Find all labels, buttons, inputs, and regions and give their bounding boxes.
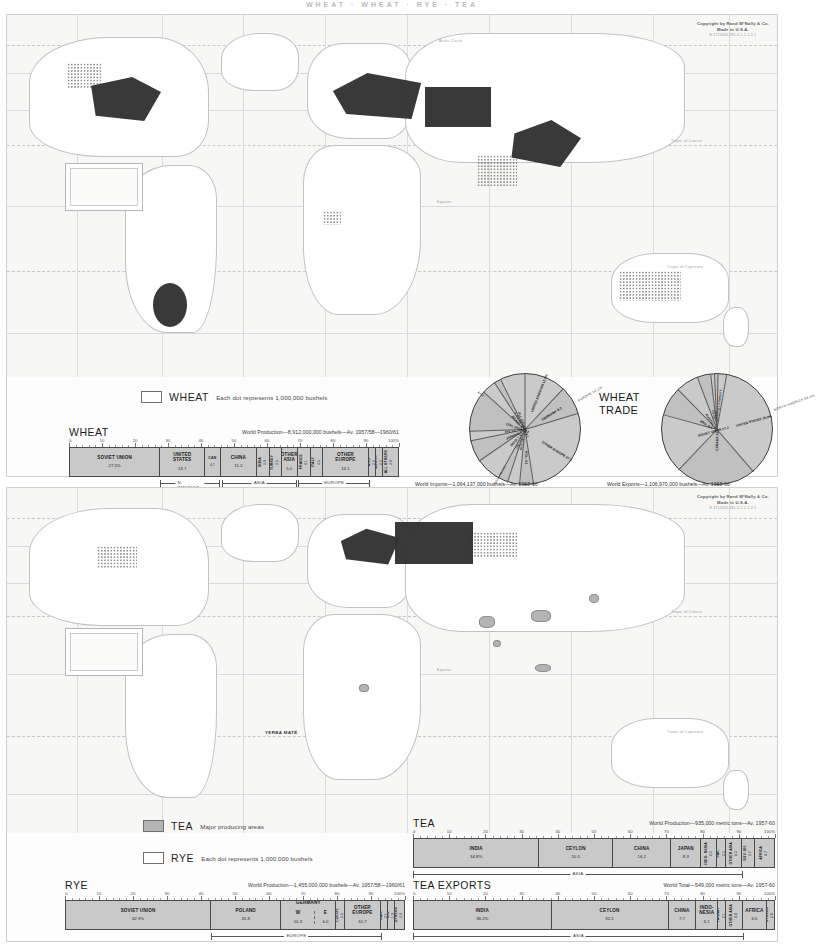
tea-exports-bar[interactable]: INDIA38.2%CEYLON32.5CHINA7.7INDO- NESIA6… <box>413 900 775 930</box>
axis-tick-label: 10 <box>447 829 452 834</box>
axis-tick-label: 90 <box>369 891 374 896</box>
tea-barchart-source: World Production—935,000 metric tons—Av.… <box>649 820 775 826</box>
bar-segment[interactable]: OTHER EUROPE10.7 <box>345 901 381 929</box>
region-bracket-label: ASIA <box>252 480 267 485</box>
wheat-barchart-bar[interactable]: SOVIET UNION27.5%UNITED STATES13.7CAN4.7… <box>69 447 399 477</box>
bar-segment[interactable]: OTHER ASIA4.8 <box>726 901 743 929</box>
bar-segment-value: 7.7 <box>679 916 685 921</box>
bar-segment[interactable]: POLAND20.8 <box>211 901 281 929</box>
bar-segment[interactable]: INDIA34.8% <box>414 839 539 867</box>
bar-segment[interactable]: UNITED STATES13.7 <box>160 448 205 476</box>
axis-tick-label: 30 <box>166 438 171 443</box>
bar-segment-label: INDO- NESIA <box>699 906 714 916</box>
bar-segment[interactable]: CAN4.7 <box>205 448 220 476</box>
bar-segment[interactable]: CEYLON32.5 <box>552 901 669 929</box>
tropic-of-cancer-label: Tropic of Cancer <box>671 610 702 614</box>
bar-segment[interactable]: OTHERS2.0 <box>767 901 774 929</box>
bar-subsegment[interactable]: E6.0 <box>315 911 335 923</box>
region-bracket: ASIA <box>222 480 297 487</box>
copyright-notice: Copyright by Rand MᶜNally & Co. Made in … <box>697 494 769 511</box>
wheat-dots-canada <box>67 63 101 89</box>
bar-segment-value: 2.8 <box>399 913 403 918</box>
bar-segment-value: 38.2% <box>476 916 488 921</box>
bar-segment[interactable]: AUSTR.2.2 <box>376 448 383 476</box>
wheat-exports-piechart[interactable]: UNITED STATES 35.9%CANADA 23.4SOVIET UNI… <box>661 373 773 485</box>
bar-segment[interactable]: SOVIET UNION42.9% <box>66 901 211 929</box>
equator-label: Equator <box>437 200 452 204</box>
bar-segment[interactable]: OTHERS2.8 <box>395 901 404 929</box>
bar-segment[interactable]: ARG.2.2 <box>369 448 376 476</box>
pie-slice-divider <box>525 374 526 430</box>
tropic-of-cancer-label: Tropic of Cancer <box>671 139 702 143</box>
axis-tick-label: 40 <box>555 891 560 896</box>
bar-segment[interactable]: OTHER ASIA5.0 <box>282 448 298 476</box>
wheat-legend: WHEAT Each dot represents 1,000,000 bush… <box>141 391 328 403</box>
rye-barchart-bar[interactable]: SOVIET UNION42.9%POLAND20.8GERMANYW10.3E… <box>65 900 405 930</box>
tea-barchart-bar[interactable]: INDIA34.8%CEYLON20.5CHINA16.2JAPAN8.3IND… <box>413 838 775 868</box>
wheat-dots-argentina <box>153 283 187 327</box>
tea-legend-title: TEA <box>171 820 193 832</box>
inset-map-box[interactable] <box>65 163 143 211</box>
axis-tick <box>399 443 400 448</box>
bar-segment[interactable]: CHINA7.7 <box>669 901 697 929</box>
bar-segment[interactable]: ALL OTHERS3.4 <box>383 448 394 476</box>
bar-segment[interactable]: JAPAN8.3 <box>671 839 701 867</box>
bar-segment[interactable]: TAIWAN2.1 <box>718 901 726 929</box>
axis-tick-label: 40 <box>555 829 560 834</box>
inset-map-frame <box>70 168 138 206</box>
landmass-africa <box>303 614 421 780</box>
bar-segment[interactable]: CAN.2.1 <box>381 901 388 929</box>
bar-segment-label: CEYLON <box>566 847 586 852</box>
bar-segment[interactable]: CZECH.2.5 <box>336 901 344 929</box>
tea-area-swatch-icon <box>143 820 164 832</box>
wheat-world-map[interactable]: Arctic Circle Tropic of Cancer Equator T… <box>7 15 777 377</box>
bar-segment[interactable]: SOVIET UNION27.5% <box>70 448 160 476</box>
bar-segment-value: 4.7 <box>764 851 768 856</box>
bar-segment[interactable]: INDO- NESIA4.5 <box>701 839 717 867</box>
region-bracket-label: ASIA <box>570 871 585 876</box>
bar-segment[interactable]: OTHER ASIA4.3 <box>726 839 741 867</box>
wheat-imports-piechart[interactable]: UNITED KINGDOM 12.0%GERMANY 8.3OTHER EUR… <box>469 373 581 485</box>
bar-segment[interactable]: INDIA38.2% <box>414 901 552 929</box>
axis-tick-label: 70 <box>301 891 306 896</box>
rye-legend-title: RYE <box>171 852 194 864</box>
bar-segment-value: 2.5 <box>722 851 726 856</box>
tea-area-india <box>479 616 495 628</box>
bar-segment[interactable]: GERMANYW10.3E6.0 <box>281 901 336 929</box>
bar-segment[interactable]: CHINA11.2 <box>221 448 258 476</box>
tea-rye-world-map[interactable]: YERBA MATÉ Tropic of Cancer Equator Trop… <box>7 488 777 833</box>
bar-segment[interactable]: CEYLON20.5 <box>539 839 613 867</box>
inset-map-box[interactable] <box>65 628 143 676</box>
rye-dots-poland-soviet <box>395 522 473 564</box>
bar-segment-split-row: W10.3E6.0 <box>281 906 335 929</box>
bar-segment[interactable]: CHINA16.2 <box>613 839 671 867</box>
bar-subsegment[interactable]: W10.3 <box>281 911 315 923</box>
axis-tick-label: 20 <box>483 829 488 834</box>
bar-segment[interactable]: SOV. UN.3.7 <box>742 839 755 867</box>
bar-subsegment-value: 6.0 <box>322 919 328 924</box>
bar-segment[interactable]: INDO- NESIA6.1 <box>696 901 718 929</box>
bar-segment[interactable]: AFRICA6.6 <box>743 901 767 929</box>
bar-segment[interactable]: FRANCE4.1 <box>298 448 311 476</box>
bar-segment-value: 20.8 <box>241 916 249 921</box>
bar-segment[interactable]: OTHER EUROPE14.1 <box>323 448 369 476</box>
wheat-barchart-source: World Production—8,912,000,000 bushels—A… <box>242 429 399 435</box>
rye-legend-description: Each dot represents 1,000,000 bushels <box>201 855 312 862</box>
bar-segment[interactable]: ITALY3.5 <box>311 448 322 476</box>
equator-label: Equator <box>437 668 452 672</box>
bar-segment-label: INDIA <box>476 909 489 914</box>
axis-tick-label: 30 <box>519 891 524 896</box>
axis-tick-label: 100% <box>764 891 775 896</box>
axis-tick-label: 30 <box>519 829 524 834</box>
rye-barchart-scale: 0102030405060708090100% <box>65 892 405 900</box>
bar-segment[interactable]: AFRICA4.7 <box>755 839 772 867</box>
bar-segment-value: 3.9 <box>263 460 267 465</box>
landmass-greenland <box>221 33 299 91</box>
tea-area-japan <box>589 594 599 603</box>
region-bracket-label: EUROPE <box>284 933 308 938</box>
bar-segment[interactable]: TURKEY3.5 <box>270 448 281 476</box>
axis-tick <box>405 896 406 901</box>
axis-tick-label: 80 <box>700 829 705 834</box>
bar-segment[interactable]: PAK.2.5 <box>717 839 726 867</box>
bar-segment[interactable]: INDIA3.9 <box>257 448 270 476</box>
